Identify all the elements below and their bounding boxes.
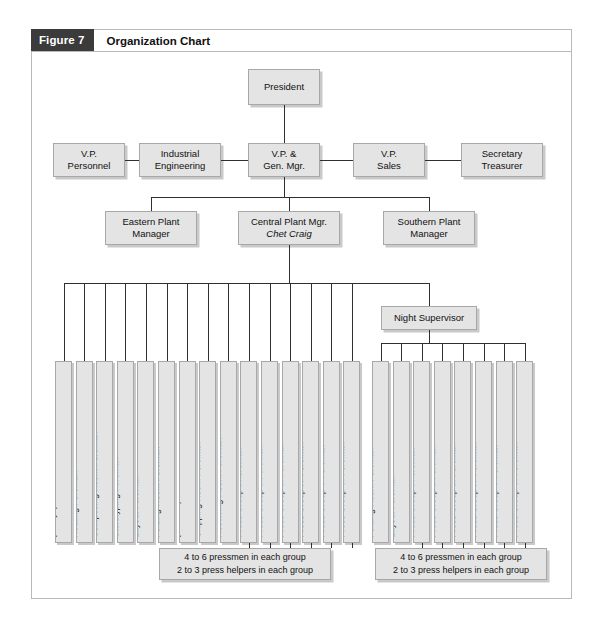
connector-exec-link-0 <box>125 160 139 161</box>
node-executive-1[interactable]: IndustrialEngineering <box>139 143 221 177</box>
connector-exec-link-2 <box>320 160 353 161</box>
role-label: Press Group VI Foreman <box>516 441 519 537</box>
node-day-foreman-6[interactable]: Stockroom Foreman(Al Noren) <box>179 361 196 543</box>
node-day-foreman-0[interactable]: Office Manager(Marilyn) <box>55 361 72 543</box>
caption-line-1: 4 to 6 pressmen in each group <box>400 551 522 564</box>
vertical-box-label: Press Group V Foreman <box>323 444 326 537</box>
box-line-1: V.P. <box>381 148 397 159</box>
node-day-foreman-11[interactable]: Press Group III Foreman <box>282 361 299 543</box>
box-label: SecretaryTreasurer <box>482 148 523 172</box>
connector-caption-1-4 <box>504 543 505 548</box>
node-day-foreman-2[interactable]: Composing Room Foreman <box>96 361 113 543</box>
vertical-box-label: Receiving Room Foreman <box>220 437 223 537</box>
node-night-foreman-0[interactable]: Folding Room Foreman <box>372 361 389 543</box>
caption-line-1: 4 to 6 pressmen in each group <box>184 551 306 564</box>
connector-caption-0-1 <box>270 543 271 548</box>
connector-plant-drop-0 <box>151 197 152 211</box>
connector-day-drop-14 <box>352 283 353 361</box>
person-name: Chet Craig <box>251 228 327 240</box>
connector-night-bus <box>381 343 525 344</box>
vertical-box-label: Press Group III Foreman <box>454 442 457 537</box>
connector-day-drop-8 <box>228 283 229 361</box>
node-day-foreman-3[interactable]: Sterotyping Foreman <box>117 361 134 543</box>
node-day-foreman-12[interactable]: Press Group IV Foreman <box>302 361 319 543</box>
connector-day-drop-3 <box>125 283 126 361</box>
box-label: Eastern PlantManager <box>122 216 179 240</box>
node-day-foreman-10[interactable]: Press Group II Foreman <box>261 361 278 543</box>
node-night-foreman-6[interactable]: Press Group V Foreman <box>496 361 513 543</box>
vertical-box-label: Composing Room Foreman <box>96 431 99 537</box>
vertical-box-label: Folding Room Foreman <box>372 447 375 537</box>
vertical-box-label: Folding-Room Foreman <box>158 446 161 537</box>
connector-night-drop-7 <box>525 343 526 361</box>
connector-day-drop-9 <box>249 283 250 361</box>
node-president[interactable]: President <box>248 69 320 105</box>
role-label: Routing Foreman <box>76 471 79 537</box>
node-night-supervisor[interactable]: Night Supervisor <box>381 306 477 330</box>
vertical-box-label: Sterotyping Foreman <box>117 457 120 537</box>
connector-caption-0-5 <box>352 543 353 548</box>
vertical-box-label: Press Group IV Foreman <box>302 441 305 537</box>
node-day-foreman-1[interactable]: Routing Foreman <box>76 361 93 543</box>
node-day-foreman-8[interactable]: Receiving Room Foreman <box>220 361 237 543</box>
node-night-foreman-1[interactable]: Layout Foreman <box>393 361 410 543</box>
connector-day-drop-5 <box>167 283 168 361</box>
node-day-foreman-4[interactable]: Layout Foreman <box>137 361 154 543</box>
node-night-foreman-3[interactable]: Press Group II Foreman <box>434 361 451 543</box>
box-label: Night Supervisor <box>394 312 464 324</box>
vertical-box-label: Shipping Room Foreman <box>199 441 202 537</box>
box-label: V.P.Personnel <box>68 148 111 172</box>
connector-day-drop-7 <box>208 283 209 361</box>
node-night-foreman-7[interactable]: Press Group VI Foreman <box>516 361 533 543</box>
connector-caption-0-0 <box>249 543 250 548</box>
node-plant-manager-0[interactable]: Eastern PlantManager <box>105 211 197 245</box>
connector-caption-1-1 <box>442 543 443 548</box>
caption-box-1: 4 to 6 pressmen in each group2 to 3 pres… <box>375 548 547 580</box>
vertical-box-label: Press Group IV Foreman <box>475 441 478 537</box>
connector-exec-link-1 <box>221 160 248 161</box>
connector-to-night-supervisor <box>429 283 430 306</box>
node-day-foreman-14[interactable]: Press Group VI Foreman <box>343 361 360 543</box>
node-day-foreman-5[interactable]: Folding-Room Foreman <box>158 361 175 543</box>
box-line-1: V.P. & <box>272 148 297 159</box>
vertical-box-label: Layout Foreman <box>137 474 140 537</box>
node-executive-2[interactable]: V.P. &Gen. Mgr. <box>248 143 320 177</box>
vertical-box-label: Press Group III Foreman <box>282 442 285 537</box>
connector-central-down <box>289 245 290 283</box>
vertical-box-label: Routing Foreman <box>76 471 79 537</box>
connector-day-drop-2 <box>105 283 106 361</box>
connector-night-drop-0 <box>381 343 382 361</box>
connector-day-drop-6 <box>187 283 188 361</box>
role-label: Press Group II Foreman <box>261 445 264 537</box>
vertical-box-label: Stockroom Foreman(Al Noren) <box>179 459 182 537</box>
node-executive-0[interactable]: V.P.Personnel <box>53 143 125 177</box>
box-line-1: Southern Plant <box>398 216 461 227</box>
box-label: V.P.Sales <box>377 148 401 172</box>
node-executive-4[interactable]: SecretaryTreasurer <box>461 143 543 177</box>
node-plant-manager-2[interactable]: Southern PlantManager <box>383 211 475 245</box>
vertical-box-label: Press Group II Foreman <box>434 445 437 537</box>
connector-plant-drop-1 <box>289 197 290 211</box>
connector-day-drop-11 <box>290 283 291 361</box>
node-plant-manager-1[interactable]: Central Plant Mgr.Chet Craig <box>238 211 340 245</box>
connector-caption-1-2 <box>463 543 464 548</box>
connector-night-drop-1 <box>401 343 402 361</box>
role-label: Press Group III Foreman <box>454 442 457 537</box>
node-night-foreman-2[interactable]: Press Group I Foreman <box>413 361 430 543</box>
node-executive-3[interactable]: V.P.Sales <box>353 143 425 177</box>
node-day-foreman-13[interactable]: Press Group V Foreman <box>323 361 340 543</box>
screenshot-root: Figure 7 Organization Chart PresidentV.P… <box>0 0 603 629</box>
role-label: Shipping Room Foreman <box>199 441 202 537</box>
role-label: Press Group III Foreman <box>282 442 285 537</box>
node-day-foreman-9[interactable]: Press Group I Foreman <box>240 361 257 543</box>
role-label: Folding-Room Foreman <box>158 446 161 537</box>
box-line-1: President <box>264 81 304 92</box>
box-label: V.P. &Gen. Mgr. <box>263 148 305 172</box>
connector-day-drop-13 <box>331 283 332 361</box>
box-line-2: Manager <box>398 228 461 240</box>
node-night-foreman-4[interactable]: Press Group III Foreman <box>454 361 471 543</box>
node-night-foreman-5[interactable]: Press Group IV Foreman <box>475 361 492 543</box>
connector-caption-1-0 <box>422 543 423 548</box>
node-day-foreman-7[interactable]: Shipping Room Foreman <box>199 361 216 543</box>
role-label: Layout Foreman <box>137 474 140 537</box>
